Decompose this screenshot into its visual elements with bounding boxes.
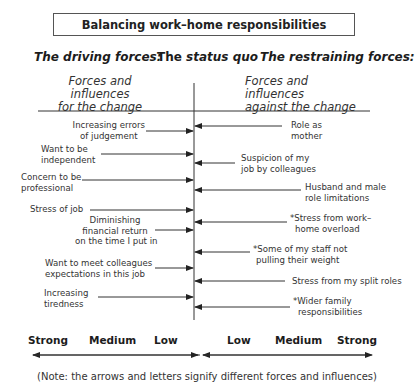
scale-right-medium: Medium bbox=[275, 334, 322, 346]
driving-force-label: Want to meet colleagues expectations in … bbox=[45, 258, 152, 279]
footnote: (Note: the arrows and letters signify di… bbox=[0, 371, 414, 382]
restraining-force-label: Husband and male role limitations bbox=[305, 182, 386, 203]
restraining-force-label: *Stress from work– home overload bbox=[290, 213, 371, 234]
driving-force-label: Stress of job bbox=[30, 204, 83, 215]
restraining-force-label: Suspicion of my job by colleagues bbox=[241, 153, 316, 174]
scale-left-strong: Strong bbox=[28, 334, 68, 346]
driving-force-label: Increasing errors of judgement bbox=[73, 120, 145, 141]
driving-force-label: Concern to be professional bbox=[21, 172, 81, 193]
restraining-force-label: Role as mother bbox=[291, 120, 322, 141]
restraining-force-label: *Wider family responsibilities bbox=[293, 296, 362, 317]
restraining-force-label: *Some of my staff not pulling their weig… bbox=[253, 244, 347, 265]
scale-right-low: Low bbox=[227, 334, 251, 346]
driving-force-label: Diminishing financial return on the time… bbox=[75, 215, 155, 247]
restraining-force-label: Stress from my split roles bbox=[292, 276, 402, 287]
scale-left-low: Low bbox=[154, 334, 178, 346]
driving-force-label: Increasing tiredness bbox=[44, 288, 88, 309]
driving-force-label: Want to be independent bbox=[41, 144, 95, 165]
scale-left-medium: Medium bbox=[89, 334, 136, 346]
scale-right-strong: Strong bbox=[337, 334, 377, 346]
